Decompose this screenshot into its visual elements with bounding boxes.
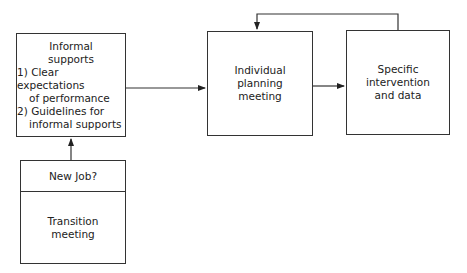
intervention-line-3: and data (366, 89, 430, 102)
item-2-line1: Guidelines for (31, 105, 104, 117)
item-1-line2: of performance (17, 92, 125, 105)
informal-supports-title-1: Informal (48, 40, 94, 53)
intervention-box: Specific intervention and data (346, 30, 450, 135)
item-1-line1: Clear expectations (17, 66, 85, 91)
intervention-line-1: Specific (366, 63, 430, 76)
new-job-header: New Job? (21, 161, 125, 192)
informal-supports-box: Informal supports 1) Clear expectations … (16, 33, 126, 137)
transition-line-2: meeting (51, 228, 95, 241)
planning-line-2: planning (234, 77, 285, 90)
item-2-line2: informal supports (17, 118, 125, 131)
transition-line-1: Transition (48, 215, 99, 228)
new-job-label: New Job? (49, 170, 97, 183)
planning-line-1: Individual (234, 64, 285, 77)
item-1-num: 1) (17, 66, 28, 78)
item-2-num: 2) (17, 105, 28, 117)
informal-supports-title-2: supports (48, 53, 94, 66)
planning-meeting-box: Individual planning meeting (207, 31, 313, 136)
arrow-feedback-loop (257, 14, 398, 30)
planning-line-3: meeting (234, 90, 285, 103)
intervention-line-2: intervention (366, 76, 430, 89)
transition-box: New Job? Transition meeting (20, 160, 126, 264)
